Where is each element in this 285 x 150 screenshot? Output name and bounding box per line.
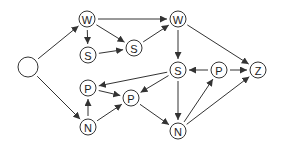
- edge-w2-to-z: [187, 25, 248, 64]
- edge-s3-to-p1: [99, 72, 167, 86]
- edge-start-to-w1: [38, 26, 78, 59]
- edge-n1-to-p2: [97, 104, 122, 121]
- node-label: P: [127, 93, 134, 105]
- edge-p1-to-p2: [99, 91, 121, 96]
- node-label: N: [174, 126, 182, 138]
- node-n2: N: [170, 123, 186, 139]
- nodes-layer: WSSWSPZPPNN: [18, 11, 266, 139]
- node-label: N: [84, 122, 92, 134]
- edge-w1-to-s2: [96, 25, 124, 42]
- edge-p2-to-n2: [140, 104, 169, 124]
- node-p3: P: [211, 62, 227, 78]
- node-label: W: [173, 14, 184, 26]
- node-label: P: [215, 65, 222, 77]
- node-n1: N: [80, 119, 96, 135]
- node-label: Z: [255, 65, 262, 77]
- node-p1: P: [80, 80, 96, 96]
- node-label: P: [84, 83, 91, 95]
- edge-start-to-n1: [37, 76, 80, 119]
- node-circle: [18, 57, 38, 77]
- node-label: S: [130, 43, 137, 55]
- state-graph-diagram: WSSWSPZPPNN: [0, 0, 285, 150]
- node-label: W: [82, 14, 93, 26]
- edge-s1-to-s2: [99, 50, 123, 54]
- node-s1: S: [80, 47, 96, 63]
- edge-s3-to-p2: [141, 76, 169, 93]
- node-s3: S: [170, 62, 186, 78]
- node-start: [18, 57, 38, 77]
- node-w1: W: [79, 11, 95, 27]
- node-s2: S: [126, 40, 142, 56]
- node-label: S: [174, 65, 181, 77]
- edge-s2-to-w2: [143, 25, 169, 42]
- node-p2: P: [123, 90, 139, 106]
- node-z: Z: [250, 62, 266, 78]
- node-w2: W: [170, 11, 186, 27]
- node-label: S: [84, 50, 91, 62]
- edge-n2-to-z: [187, 77, 250, 125]
